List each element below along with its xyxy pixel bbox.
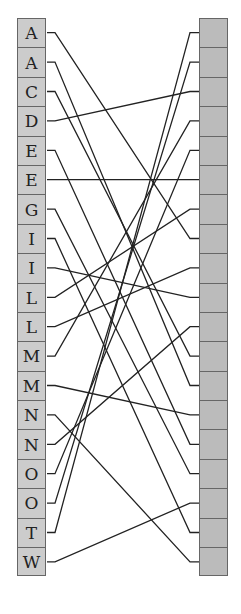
- connection-line: [47, 209, 199, 297]
- connection-line: [47, 327, 199, 445]
- connection-line: [47, 268, 199, 327]
- connection-line: [47, 33, 199, 239]
- connection-line: [47, 386, 199, 415]
- connection-line: [47, 92, 199, 357]
- connection-line: [47, 503, 199, 562]
- connection-line: [47, 209, 199, 474]
- connection-line: [47, 150, 199, 473]
- connection-lines: [0, 0, 241, 614]
